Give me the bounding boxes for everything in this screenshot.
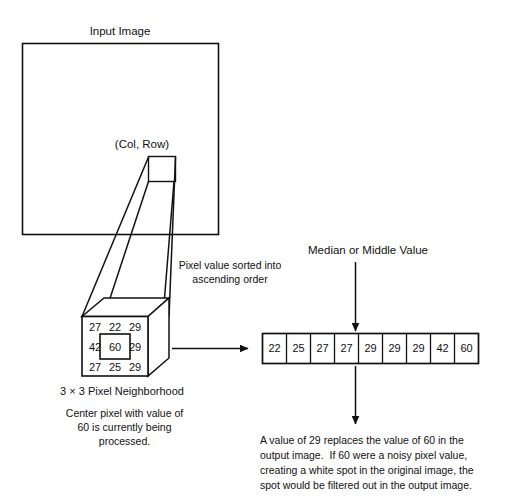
array-cell-5: 29 xyxy=(383,342,407,354)
grid-cell-2-1: 25 xyxy=(104,361,126,373)
array-cell-0: 22 xyxy=(263,342,287,354)
grid-cell-0-2: 29 xyxy=(124,321,146,333)
sorted-order-label: Pixel value sorted into ascending order xyxy=(160,259,300,287)
grid-cell-2-0: 27 xyxy=(84,361,106,373)
array-cell-6: 29 xyxy=(407,342,431,354)
result-caption: A value of 29 replaces the value of 60 i… xyxy=(260,433,505,493)
grid-cell-1-2: 29 xyxy=(124,341,146,353)
array-cell-4-median: 29 xyxy=(359,342,383,354)
grid-cell-1-0: 42 xyxy=(84,341,106,353)
array-cell-3: 27 xyxy=(335,342,359,354)
grid-cell-1-1-center: 60 xyxy=(104,341,126,353)
col-row-label: (Col, Row) xyxy=(82,137,202,152)
neighborhood-caption: 3 × 3 Pixel Neighborhood xyxy=(22,384,222,399)
array-cell-8: 60 xyxy=(455,342,479,354)
median-value-label: Median or Middle Value xyxy=(268,243,468,258)
grid-cell-0-0: 27 xyxy=(84,321,106,333)
grid-cell-0-1: 22 xyxy=(104,321,126,333)
array-cell-2: 27 xyxy=(311,342,335,354)
input-image-title: Input Image xyxy=(0,24,240,39)
center-pixel-caption: Center pixel with value of 60 is current… xyxy=(32,407,217,449)
figure-canvas: Input Image (Col, Row) Pixel value sorte… xyxy=(0,0,506,504)
grid-cell-2-2: 29 xyxy=(124,361,146,373)
array-cell-1: 25 xyxy=(287,342,311,354)
selected-pixel-box xyxy=(149,157,176,182)
perspective-funnel xyxy=(82,157,176,317)
array-cell-7: 42 xyxy=(431,342,455,354)
